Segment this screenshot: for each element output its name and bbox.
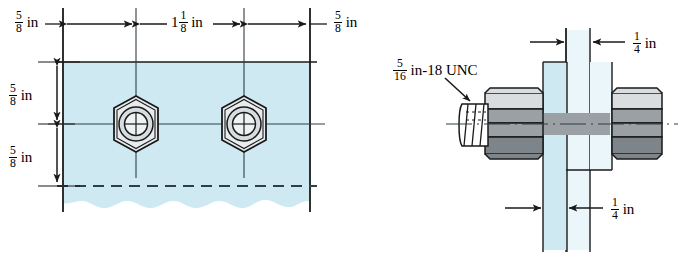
dim-label-edge-top-fraction: 5 8	[9, 83, 18, 108]
dim-label-edge-right: 5 8 in	[333, 10, 357, 35]
dim-label-thickness-top-fraction: 1 4	[633, 31, 642, 56]
hex-nut-near-band-bottom	[485, 137, 543, 154]
hex-nut-right	[222, 96, 266, 152]
dim-label-edge-left: 5 8 in	[14, 10, 38, 35]
front-view-group	[38, 8, 327, 212]
hex-nut-far-band-lower	[612, 123, 662, 137]
hex-nut-near-band-top	[485, 93, 543, 109]
drawing-canvas	[0, 0, 683, 256]
dim-label-edge-right-fraction: 5 8	[334, 10, 343, 35]
hex-nut-far-band-bottom	[612, 137, 662, 154]
dim-label-edge-bottom: 5 8 in	[8, 145, 32, 170]
hex-nut-far-band-upper	[612, 109, 662, 123]
hex-nut-near-band-lower	[485, 123, 543, 137]
hex-nut-far-chamfer-top	[612, 88, 662, 93]
engineering-drawing: 5 8 in 1 1 8 in 5 8 in 5 8 in 5 8 in 5 1	[0, 0, 683, 256]
plate-near-fill	[543, 62, 567, 250]
dim-label-edge-bottom-fraction: 5 8	[9, 145, 18, 170]
hex-nut-near-chamfer-top	[485, 88, 543, 93]
dim-label-edge-top: 5 8 in	[8, 83, 32, 108]
thread-callout-label: 5 16 in-18 UNC	[392, 58, 478, 83]
side-view-group	[445, 28, 678, 252]
hex-nut-near-band-upper	[485, 109, 543, 123]
dim-label-bolt-spacing-fraction: 1 8	[179, 10, 188, 35]
bolt-thread-end	[459, 104, 488, 146]
plate-far-fill	[566, 30, 590, 250]
dim-label-thickness-top: 1 4 in	[632, 31, 656, 56]
hex-nut-near-chamfer-bottom	[485, 154, 543, 159]
dim-label-thickness-bottom-fraction: 1 4	[611, 197, 620, 222]
hex-nut-far-band-top	[612, 93, 662, 109]
hex-nut-left	[114, 96, 158, 152]
dim-label-edge-left-fraction: 5 8	[15, 10, 24, 35]
dim-label-thickness-bottom: 1 4 in	[610, 197, 634, 222]
hex-nut-far-chamfer-bottom	[612, 154, 662, 159]
dim-label-bolt-spacing: 1 1 8 in	[171, 10, 203, 35]
thread-callout-fraction: 5 16	[393, 58, 407, 83]
